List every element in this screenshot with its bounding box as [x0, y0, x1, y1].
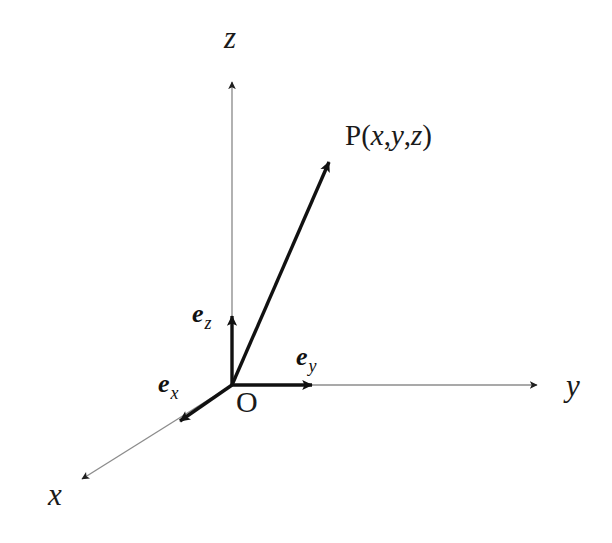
e-z-subscript: z: [204, 313, 212, 333]
figure-canvas: x y z ex ey ez O P(x,y,z): [0, 0, 612, 543]
e-x-subscript: x: [170, 383, 179, 403]
e-z-symbol: e: [192, 299, 204, 328]
origin-label: O: [236, 385, 258, 418]
e-x-vector-arrow: [180, 385, 232, 421]
point-p-close-paren: ): [422, 119, 432, 152]
x-axis-label: x: [47, 477, 62, 512]
op-position-vector-arrow: [232, 162, 329, 385]
point-p-open-paren: (: [361, 119, 371, 152]
e-y-symbol: e: [296, 342, 308, 371]
e-z-label: ez: [192, 299, 212, 333]
point-p-z: z: [410, 119, 422, 151]
point-p-comma-2: ,: [404, 119, 411, 151]
thin-axes-group: [82, 82, 537, 479]
y-axis-label: y: [563, 368, 580, 403]
e-x-label: ex: [158, 369, 179, 403]
z-axis-label: z: [223, 20, 236, 55]
point-p-x: x: [370, 119, 384, 151]
e-y-subscript: y: [307, 356, 317, 376]
e-x-symbol: e: [158, 369, 170, 398]
coordinate-system-diagram: x y z ex ey ez O P(x,y,z): [0, 0, 612, 543]
e-y-label: ey: [296, 342, 317, 376]
point-p-label: P(x,y,z): [345, 119, 432, 152]
point-p-y: y: [388, 119, 404, 151]
point-p-prefix: P: [345, 119, 361, 151]
point-p-comma-1: ,: [384, 119, 391, 151]
